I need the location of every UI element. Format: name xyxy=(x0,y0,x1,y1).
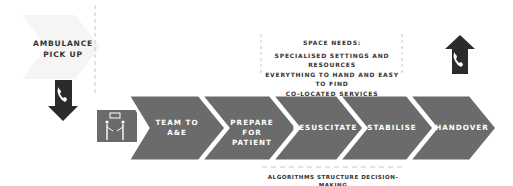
algorithms-caption: ALGORITHMS STRUCTURE DECISION-MAKING xyxy=(258,173,408,186)
step-handover: HANDOVER xyxy=(432,123,492,133)
phone-up-arrow-icon xyxy=(445,35,475,74)
step-stabilise: STABILISE xyxy=(362,123,422,133)
phone-down-arrow-icon xyxy=(48,80,78,121)
diagram-graphics xyxy=(0,0,513,186)
space-needs-title: SPACE NEEDS: xyxy=(262,38,402,48)
space-needs-block: SPACE NEEDS: SPECIALISED SETTINGS AND RE… xyxy=(262,38,402,98)
step-label-line1: STABILISE xyxy=(362,123,422,133)
space-needs-line: CO-LOCATED SERVICES xyxy=(262,89,402,99)
step-team-to-ae: TEAM TO A&E xyxy=(148,118,206,138)
team-icon-box xyxy=(97,110,137,142)
step-prepare-for-patient: PREPARE FOR PATIENT xyxy=(222,118,282,148)
ambulance-pickup-label: AMBULANCE PICK UP xyxy=(26,38,100,60)
step-label-line2: FOR PATIENT xyxy=(222,128,282,148)
step-label-line1: RESUSCITATE xyxy=(290,123,360,133)
ambulance-pickup-line1: AMBULANCE xyxy=(26,38,100,49)
space-needs-line: SPECIALISED SETTINGS AND RESOURCES xyxy=(262,51,402,70)
space-needs-line: EVERYTHING TO HAND AND EASY TO FIND xyxy=(262,70,402,89)
step-label-line1: PREPARE xyxy=(222,118,282,128)
ambulance-pickup-line2: PICK UP xyxy=(26,49,100,60)
step-resuscitate: RESUSCITATE xyxy=(290,123,360,133)
step-label-line1: TEAM TO xyxy=(148,118,206,128)
step-label-line1: HANDOVER xyxy=(432,123,492,133)
step-label-line2: A&E xyxy=(148,128,206,138)
